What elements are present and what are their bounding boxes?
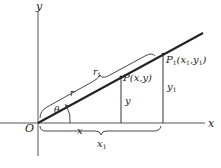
origin-label: O: [25, 122, 34, 135]
r1-label: r1: [93, 67, 101, 78]
theta-arc: [67, 107, 70, 123]
y-axis-label: y: [35, 0, 43, 13]
p-label: P(x,y): [122, 72, 152, 83]
p1-label: P1(x1,y1): [165, 54, 207, 66]
x1-label: x1: [97, 138, 106, 150]
y1-label: y1: [166, 81, 176, 93]
x1-brace: [40, 126, 161, 135]
x-axis-label: x: [208, 117, 215, 130]
r-label: r: [70, 88, 75, 98]
point-p1: [162, 53, 165, 56]
x-label: x: [77, 125, 83, 136]
theta-label: θ: [54, 105, 60, 115]
polar-diagram: y x O r r1 θ P(x,y) P1(x1,y1) y y1 x x1: [0, 0, 221, 168]
y-label: y: [124, 95, 131, 106]
